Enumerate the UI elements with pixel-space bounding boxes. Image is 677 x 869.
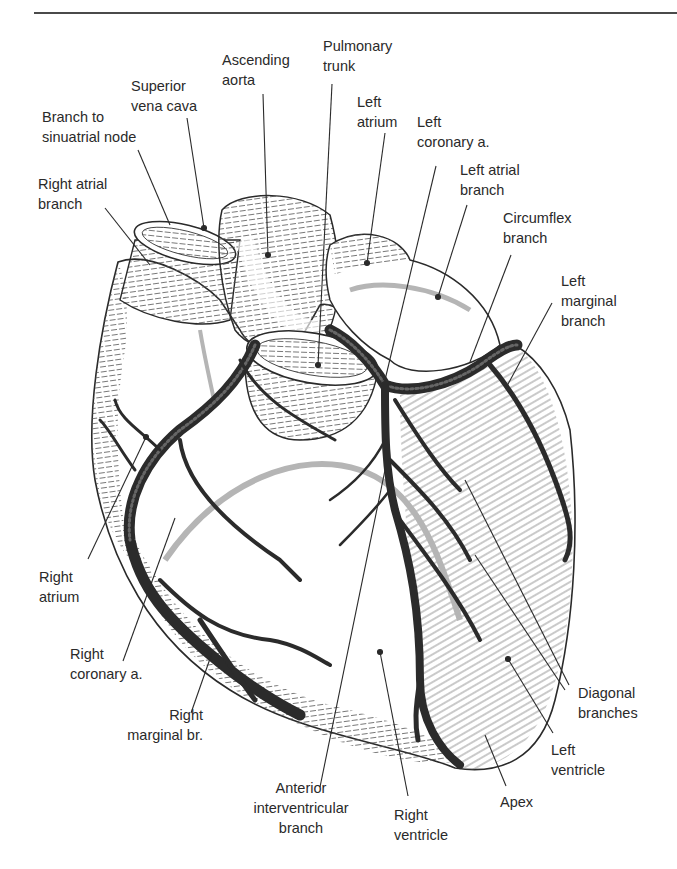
- label-apex: Apex: [500, 792, 533, 812]
- label-right-atrial-branch: Right atrial branch: [38, 174, 107, 214]
- label-left-atrial-branch: Left atrial branch: [460, 160, 520, 200]
- label-branch-to-sinuatrial-node: Branch to sinuatrial node: [42, 107, 136, 147]
- label-diagonal-branches: Diagonal branches: [578, 683, 638, 723]
- label-pulmonary-trunk: Pulmonary trunk: [323, 36, 392, 76]
- heart-coronary-diagram: Ascending aorta Pulmonary trunk Superior…: [0, 0, 677, 869]
- label-left-atrium: Left atrium: [357, 92, 397, 132]
- label-right-marginal-branch: Right marginal br.: [113, 705, 203, 745]
- label-ascending-aorta: Ascending aorta: [222, 50, 290, 90]
- label-right-atrium: Right atrium: [39, 567, 79, 607]
- label-left-coronary-artery: Left coronary a.: [417, 112, 490, 152]
- label-superior-vena-cava: Superior vena cava: [131, 76, 197, 116]
- label-anterior-interventricular-branch: Anterior interventricular branch: [230, 778, 372, 838]
- label-left-ventricle: Left ventricle: [551, 740, 605, 780]
- label-right-ventricle: Right ventricle: [394, 805, 448, 845]
- ascending-aorta: [219, 196, 339, 353]
- label-circumflex-branch: Circumflex branch: [503, 208, 571, 248]
- label-right-coronary-artery: Right coronary a.: [70, 644, 143, 684]
- label-left-marginal-branch: Left marginal branch: [561, 271, 617, 331]
